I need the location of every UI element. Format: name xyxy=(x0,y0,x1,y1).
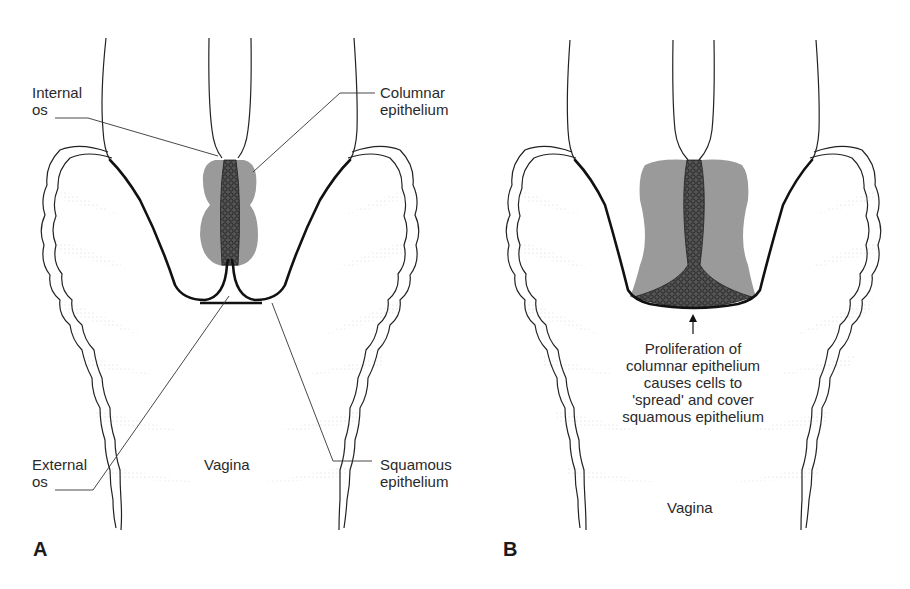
panel-letter-b: B xyxy=(503,538,517,561)
caption-line: Proliferation of xyxy=(603,340,783,357)
arrow-up-icon xyxy=(689,314,697,334)
label-line: Columnar xyxy=(380,84,448,101)
cervical-canal-right xyxy=(699,40,714,160)
leader-squamous-epithelium xyxy=(272,303,372,461)
cervical-canal-left xyxy=(673,40,688,160)
cervical-canal-left xyxy=(209,38,222,158)
uterine-wall-right xyxy=(350,38,357,160)
label-columnar-epithelium: Columnar epithelium xyxy=(380,84,448,118)
cervix-diagram xyxy=(0,0,910,589)
label-line: os xyxy=(32,473,87,490)
cervical-canal-right xyxy=(238,38,251,158)
uterine-wall-left xyxy=(567,40,575,160)
label-line: Internal xyxy=(32,84,82,101)
caption-line: causes cells to xyxy=(603,374,783,391)
label-line: os xyxy=(32,101,82,118)
label-external-os: External os xyxy=(32,456,87,490)
label-line: External xyxy=(32,456,87,473)
caption-line: 'spread' and cover xyxy=(603,391,783,408)
label-line: epithelium xyxy=(380,101,448,118)
label-internal-os: Internal os xyxy=(32,84,82,118)
label-vagina-b: Vagina xyxy=(667,499,713,516)
leader-internal-os xyxy=(55,118,218,156)
caption-line: squamous epithelium xyxy=(603,408,783,425)
uterine-wall-left xyxy=(102,38,110,160)
vaginal-rugae-left xyxy=(515,190,655,482)
panel-letter-a: A xyxy=(33,538,47,561)
label-line: Squamous xyxy=(380,456,452,473)
vaginal-rugae-right xyxy=(265,190,410,482)
columnar-cells xyxy=(220,160,239,265)
label-vagina-a: Vagina xyxy=(204,456,250,473)
caption-proliferation: Proliferation of columnar epithelium cau… xyxy=(603,340,783,425)
panel-b xyxy=(506,40,881,530)
vaginal-rugae-left xyxy=(55,190,195,482)
label-line: epithelium xyxy=(380,473,452,490)
uterine-wall-right xyxy=(812,40,819,160)
caption-line: columnar epithelium xyxy=(603,357,783,374)
label-squamous-epithelium: Squamous epithelium xyxy=(380,456,452,490)
